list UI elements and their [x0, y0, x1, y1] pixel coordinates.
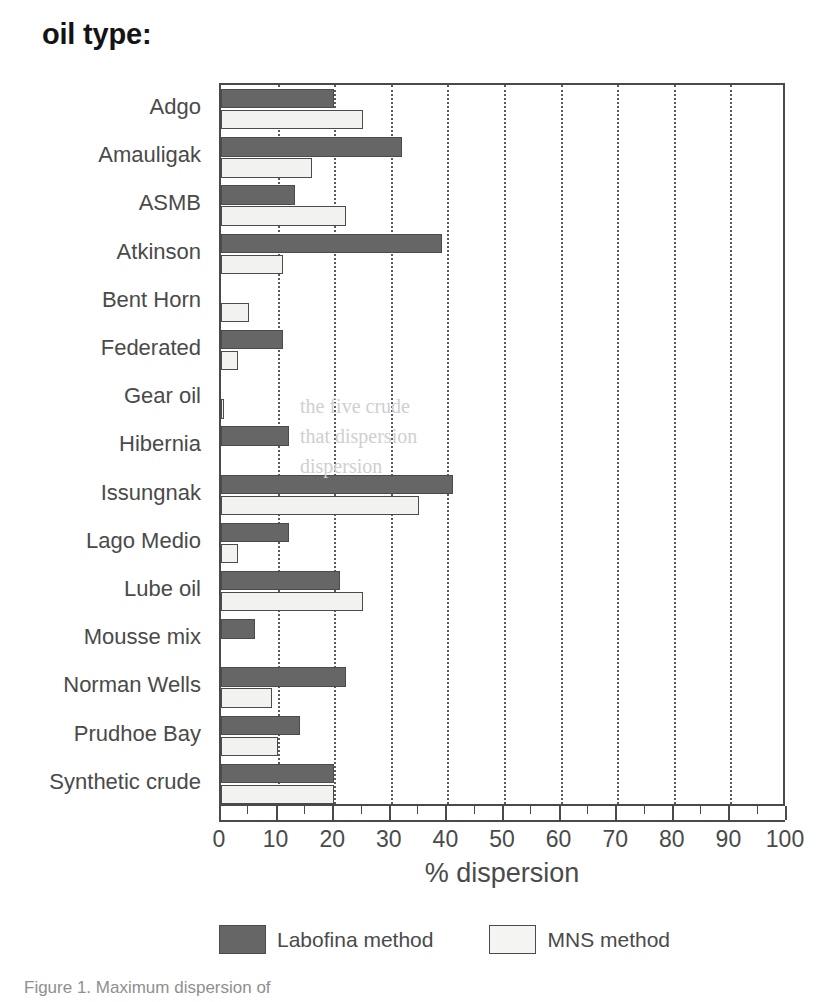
- y-label-asmb: ASMB: [139, 179, 201, 227]
- bar-labofina: [221, 619, 255, 638]
- bar-group: [221, 471, 783, 519]
- bar-mns: [221, 688, 272, 707]
- bar-group: [221, 181, 783, 229]
- x-tick-label-70: 70: [602, 826, 628, 853]
- y-label-atkinson: Atkinson: [117, 228, 201, 276]
- x-minor-tick-95: [757, 806, 758, 814]
- bar-group: [221, 133, 783, 181]
- bar-group: [221, 85, 783, 133]
- y-label-norman-wells: Norman Wells: [63, 661, 201, 709]
- bar-mns: [221, 206, 346, 225]
- bar-labofina: [221, 764, 334, 783]
- bar-group: [221, 326, 783, 374]
- x-minor-tick-5: [247, 806, 248, 814]
- x-tick-label-80: 80: [659, 826, 685, 853]
- x-tick-label-50: 50: [489, 826, 515, 853]
- bar-labofina: [221, 234, 442, 253]
- bar-group: [221, 278, 783, 326]
- x-tick-60: [559, 806, 561, 820]
- bar-mns: [221, 303, 249, 322]
- bar-labofina: [221, 475, 453, 494]
- y-label-lago-medio: Lago Medio: [86, 517, 201, 565]
- y-label-prudhoe-bay: Prudhoe Bay: [74, 710, 201, 758]
- legend: Labofina method MNS method: [219, 925, 785, 954]
- x-tick-label-100: 100: [766, 826, 804, 853]
- x-tick-label-20: 20: [319, 826, 345, 853]
- x-tick-label-40: 40: [433, 826, 459, 853]
- bar-mns: [221, 110, 363, 129]
- y-axis-category-labels: AdgoAmauligakASMBAtkinsonBent HornFedera…: [0, 83, 212, 806]
- y-label-amauligak: Amauligak: [98, 131, 201, 179]
- bar-group: [221, 663, 783, 711]
- bar-group: [221, 712, 783, 760]
- x-tick-90: [728, 806, 730, 820]
- bar-group: [221, 422, 783, 470]
- x-tick-label-30: 30: [376, 826, 402, 853]
- bar-labofina: [221, 716, 300, 735]
- page-title: oil type:: [42, 18, 151, 51]
- y-label-synthetic-crude: Synthetic crude: [49, 758, 201, 806]
- plot-area: [219, 83, 785, 806]
- y-label-hibernia: Hibernia: [119, 420, 201, 468]
- x-tick-label-90: 90: [716, 826, 742, 853]
- legend-swatch-labofina-icon: [219, 925, 266, 954]
- y-label-federated: Federated: [101, 324, 201, 372]
- x-tick-70: [615, 806, 617, 820]
- bar-mns: [221, 351, 238, 370]
- bar-mns: [221, 399, 224, 418]
- x-minor-tick-75: [644, 806, 645, 814]
- y-label-lube-oil: Lube oil: [124, 565, 201, 613]
- y-label-adgo: Adgo: [150, 83, 201, 131]
- bar-labofina: [221, 89, 334, 108]
- y-label-mousse-mix: Mousse mix: [84, 613, 201, 661]
- bar-mns: [221, 255, 283, 274]
- x-tick-10: [276, 806, 278, 820]
- bars-layer: [221, 85, 783, 804]
- bar-mns: [221, 785, 334, 804]
- bar-mns: [221, 544, 238, 563]
- bar-group: [221, 567, 783, 615]
- x-tick-80: [672, 806, 674, 820]
- y-label-bent-horn: Bent Horn: [102, 276, 201, 324]
- bar-labofina: [221, 571, 340, 590]
- bar-labofina: [221, 523, 289, 542]
- bar-group: [221, 760, 783, 808]
- bar-mns: [221, 737, 278, 756]
- bar-group: [221, 519, 783, 567]
- legend-item-mns: MNS method: [489, 925, 670, 954]
- y-label-gear-oil: Gear oil: [124, 372, 201, 420]
- x-tick-50: [502, 806, 504, 820]
- legend-swatch-mns-icon: [489, 925, 536, 954]
- bar-mns: [221, 592, 363, 611]
- bar-group: [221, 374, 783, 422]
- x-minor-tick-35: [417, 806, 418, 814]
- bar-labofina: [221, 185, 295, 204]
- bar-mns: [221, 158, 312, 177]
- bar-group: [221, 615, 783, 663]
- x-axis-title: % dispersion: [219, 858, 785, 889]
- y-label-issungnak: Issungnak: [101, 469, 201, 517]
- x-tick-20: [332, 806, 334, 820]
- x-axis-tick-labels: 0102030405060708090100: [219, 826, 785, 856]
- x-tick-30: [389, 806, 391, 820]
- x-minor-tick-45: [474, 806, 475, 814]
- legend-label-labofina: Labofina method: [277, 928, 433, 952]
- legend-label-mns: MNS method: [547, 928, 670, 952]
- bar-group: [221, 230, 783, 278]
- bar-labofina: [221, 426, 289, 445]
- x-minor-tick-55: [530, 806, 531, 814]
- x-tick-100: [785, 806, 787, 820]
- x-minor-tick-85: [700, 806, 701, 814]
- x-tick-label-0: 0: [213, 826, 226, 853]
- legend-item-labofina: Labofina method: [219, 925, 433, 954]
- bar-labofina: [221, 330, 283, 349]
- x-minor-tick-15: [304, 806, 305, 814]
- bar-mns: [221, 496, 419, 515]
- x-tick-0: [219, 806, 221, 820]
- x-minor-tick-65: [587, 806, 588, 814]
- figure-caption: Figure 1. Maximum dispersion of: [24, 978, 271, 998]
- x-minor-tick-25: [361, 806, 362, 814]
- x-tick-label-60: 60: [546, 826, 572, 853]
- bar-labofina: [221, 137, 402, 156]
- x-axis-line: [219, 820, 785, 822]
